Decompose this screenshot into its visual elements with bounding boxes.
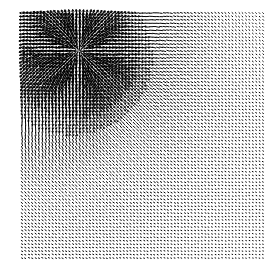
quiver-figure (0, 0, 278, 279)
quiver-plot-area (0, 0, 278, 279)
quiver-vector-layer (0, 0, 278, 279)
